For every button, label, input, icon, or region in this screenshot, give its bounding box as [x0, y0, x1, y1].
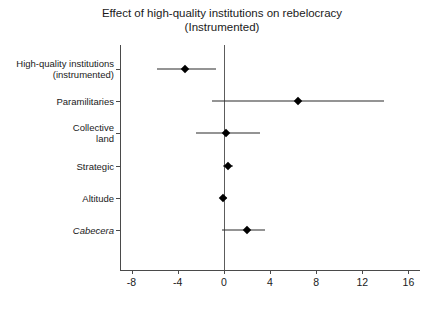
x-tick-label: -4 [158, 276, 198, 288]
x-tick-label: 12 [342, 276, 382, 288]
x-tick-label: -8 [112, 276, 152, 288]
y-tick [116, 69, 120, 70]
x-tick-label: 16 [388, 276, 428, 288]
y-tick [116, 133, 120, 134]
y-tick [116, 230, 120, 231]
plot-area: -8-40481216 High-quality institutions (i… [120, 45, 420, 270]
x-tick-label: 4 [250, 276, 290, 288]
y-axis-label: Altitude [0, 192, 114, 203]
y-tick [116, 166, 120, 167]
chart-title: Effect of high-quality institutions on r… [0, 7, 444, 34]
y-tick [116, 101, 120, 102]
x-tick [362, 270, 363, 274]
y-axis-label: Collective land [0, 122, 114, 144]
x-tick [224, 270, 225, 274]
coefficient-plot-figure: Effect of high-quality institutions on r… [0, 0, 444, 312]
x-tick [132, 270, 133, 274]
coefficient-row[interactable] [120, 118, 420, 148]
y-axis-label: Cabecera [0, 224, 114, 235]
y-tick [116, 198, 120, 199]
y-axis-label: Paramilitaries [0, 96, 114, 107]
coefficient-row[interactable] [120, 215, 420, 245]
y-axis-label: Strategic [0, 160, 114, 171]
x-tick [408, 270, 409, 274]
coefficient-row[interactable] [120, 183, 420, 213]
x-tick-label: 0 [204, 276, 244, 288]
coefficient-row[interactable] [120, 151, 420, 181]
x-tick [270, 270, 271, 274]
x-tick-label: 8 [296, 276, 336, 288]
y-axis-label: High-quality institutions (instrumented) [0, 58, 114, 80]
x-tick [178, 270, 179, 274]
x-tick [316, 270, 317, 274]
